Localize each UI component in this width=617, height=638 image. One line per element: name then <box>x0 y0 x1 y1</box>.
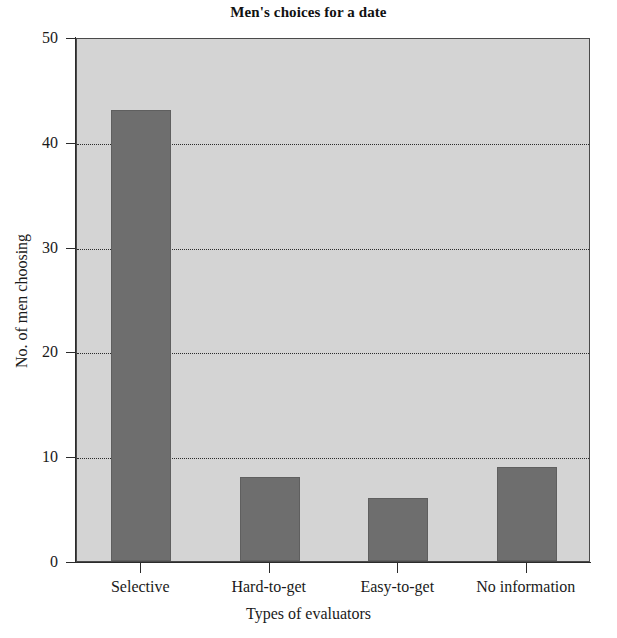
x-tick-mark <box>140 562 141 573</box>
y-tick-mark <box>66 562 76 563</box>
y-tick-label: 0 <box>18 554 58 570</box>
y-tick-label: 40 <box>18 135 58 151</box>
x-tick-label: Selective <box>111 578 170 596</box>
bar <box>240 477 300 561</box>
y-tick-mark <box>66 457 76 458</box>
chart-figure: Men's choices for a date 01020304050 Sel… <box>0 0 617 638</box>
x-tick-label: Easy-to-get <box>360 578 434 596</box>
x-axis-title: Types of evaluators <box>0 605 617 623</box>
x-tick-mark <box>526 562 527 573</box>
x-axis-line <box>75 562 591 563</box>
x-tick-label: No information <box>476 578 575 596</box>
chart-title: Men's choices for a date <box>0 4 617 21</box>
x-tick-label: Hard-to-get <box>231 578 306 596</box>
bar <box>111 110 171 561</box>
x-tick-mark <box>397 562 398 573</box>
y-tick-mark <box>66 143 76 144</box>
y-tick-mark <box>66 38 76 39</box>
bar <box>497 467 557 561</box>
plot-area <box>76 38 590 562</box>
y-tick-mark <box>66 352 76 353</box>
y-tick-mark <box>66 248 76 249</box>
bar <box>368 498 428 561</box>
x-tick-mark <box>269 562 270 573</box>
y-tick-label: 10 <box>18 449 58 465</box>
y-axis-title: No. of men choosing <box>13 201 31 401</box>
y-tick-label: 50 <box>18 30 58 46</box>
y-axis-line <box>75 37 76 563</box>
